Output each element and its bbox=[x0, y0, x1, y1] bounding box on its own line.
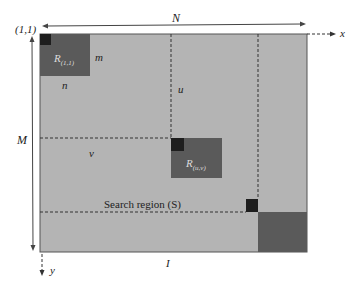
pixel-last bbox=[246, 199, 258, 212]
width-label: N bbox=[172, 12, 180, 24]
pixel-ruv bbox=[171, 138, 184, 151]
offset-v-label: v bbox=[89, 148, 94, 159]
x-axis-label: x bbox=[340, 28, 345, 39]
diagram-canvas bbox=[0, 0, 358, 290]
arrow-head-left bbox=[42, 24, 48, 29]
search-region-label: Search region (S) bbox=[104, 199, 181, 210]
block-last bbox=[258, 212, 307, 252]
origin-label: (1,1) bbox=[15, 24, 36, 35]
arrow-head-right bbox=[300, 22, 306, 27]
block-height-label: m bbox=[95, 52, 103, 63]
offset-u-label: u bbox=[178, 84, 184, 95]
height-arrow bbox=[32, 40, 33, 248]
y-axis-arrowhead bbox=[40, 270, 45, 276]
block-r11-label: R(1,1) bbox=[54, 53, 74, 67]
arrow-head-up bbox=[30, 36, 35, 42]
pixel-r11 bbox=[40, 34, 51, 45]
y-axis-label: y bbox=[50, 265, 55, 276]
block-ruv-label: R(u,v) bbox=[186, 158, 206, 172]
limit-label: I bbox=[166, 258, 170, 269]
height-label: M bbox=[17, 134, 27, 146]
block-width-label: n bbox=[62, 80, 68, 91]
arrow-head-down bbox=[31, 245, 36, 251]
x-axis-arrowhead bbox=[330, 32, 336, 37]
